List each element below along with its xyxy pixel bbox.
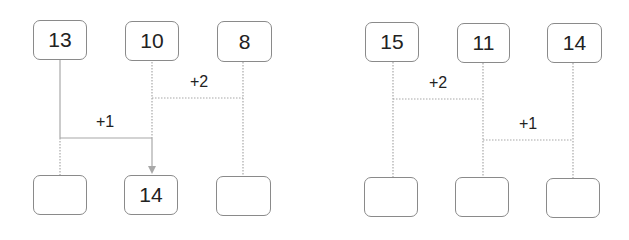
top-box-1: 15 bbox=[365, 22, 419, 62]
bottom-box-2[interactable] bbox=[455, 177, 509, 217]
bottom-box-2[interactable]: 14 bbox=[124, 175, 178, 215]
top-box-2: 10 bbox=[125, 21, 179, 61]
increment-label: +1 bbox=[96, 113, 114, 131]
arrow-head-icon bbox=[148, 166, 156, 174]
increment-label: +2 bbox=[429, 74, 447, 92]
increment-label: +1 bbox=[519, 115, 537, 133]
top-box-1: 13 bbox=[33, 20, 87, 60]
bottom-box-1[interactable] bbox=[364, 177, 418, 217]
bottom-box-1[interactable] bbox=[33, 175, 87, 215]
top-box-2: 11 bbox=[457, 23, 510, 63]
increment-label: +2 bbox=[190, 73, 208, 91]
bottom-box-3[interactable] bbox=[546, 178, 600, 218]
bottom-box-3[interactable] bbox=[216, 176, 271, 216]
top-box-3: 8 bbox=[217, 21, 272, 62]
top-box-3: 14 bbox=[547, 23, 602, 63]
